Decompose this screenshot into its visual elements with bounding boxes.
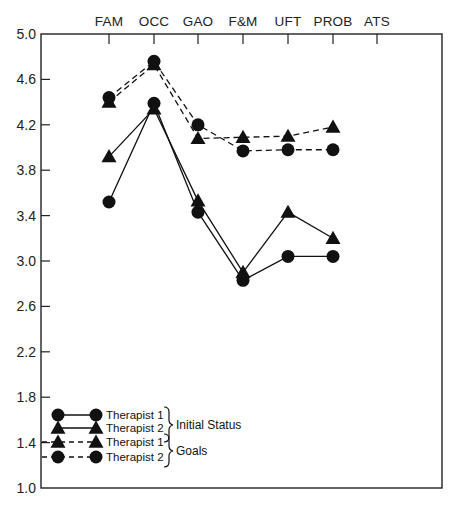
legend-label: Therapist 1 — [106, 436, 164, 448]
legend-triangle-marker — [51, 435, 66, 448]
legend-entry: Therapist 2 — [51, 421, 164, 435]
x-category-label: PROB — [313, 14, 352, 29]
y-tick-label: 4.6 — [17, 71, 37, 87]
y-tick-label: 1.4 — [17, 435, 37, 451]
legend-label: Therapist 1 — [106, 409, 164, 421]
plot-frame — [41, 34, 442, 488]
line-chart: 5.04.64.23.83.43.02.62.21.81.41.0 FAMOCC… — [0, 0, 452, 505]
legend: Therapist 1Therapist 2Therapist 1Therapi… — [42, 407, 241, 467]
legend-entry: Therapist 1 — [52, 409, 164, 422]
legend-label: Therapist 2 — [106, 422, 164, 434]
legend-label: Therapist 2 — [106, 451, 164, 463]
data-point-circle-marker — [237, 144, 250, 157]
series-line — [109, 103, 333, 280]
x-category-label: GAO — [183, 14, 214, 29]
data-point-triangle-marker — [236, 130, 251, 143]
series-initial-status-therapist-2 — [102, 101, 341, 278]
legend-group-goals: Goals — [176, 444, 207, 458]
x-category-label: OCC — [139, 14, 170, 29]
data-point-triangle-marker — [281, 205, 296, 218]
data-point-circle-marker — [327, 143, 340, 156]
legend-entry: Therapist 1 — [42, 435, 164, 449]
data-point-circle-marker — [103, 195, 116, 208]
y-tick-label: 3.4 — [17, 208, 37, 224]
x-axis: FAMOCCGAOF&MUFTPROBATS — [95, 14, 390, 44]
data-point-circle-marker — [282, 143, 295, 156]
series-goals-therapist-2 — [103, 55, 340, 158]
y-tick-label: 1.8 — [17, 389, 37, 405]
y-tick-label: 3.0 — [17, 253, 37, 269]
legend-circle-marker — [90, 409, 103, 422]
y-tick-label: 1.0 — [17, 480, 37, 496]
y-tick-label: 2.2 — [17, 344, 37, 360]
data-point-circle-marker — [148, 55, 161, 68]
data-point-triangle-marker — [326, 231, 341, 244]
legend-entry: Therapist 2 — [42, 451, 164, 464]
legend-circle-marker — [52, 409, 65, 422]
data-point-circle-marker — [192, 118, 205, 131]
legend-triangle-marker — [51, 421, 66, 434]
legend-triangle-marker — [89, 435, 104, 448]
x-category-label: UFT — [275, 14, 302, 29]
y-tick-label: 5.0 — [17, 26, 37, 42]
y-axis: 5.04.64.23.83.43.02.62.21.81.41.0 — [17, 26, 50, 496]
data-point-triangle-marker — [326, 120, 341, 133]
data-point-triangle-marker — [281, 129, 296, 142]
y-tick-label: 2.6 — [17, 298, 37, 314]
data-point-circle-marker — [327, 250, 340, 263]
series-goals-therapist-1 — [102, 57, 341, 144]
x-category-label: F&M — [228, 14, 257, 29]
legend-group-initial-status: Initial Status — [176, 418, 241, 432]
legend-triangle-marker — [89, 421, 104, 434]
y-tick-label: 4.2 — [17, 117, 37, 133]
legend-circle-marker — [52, 451, 65, 464]
data-point-circle-marker — [103, 91, 116, 104]
data-series — [102, 55, 341, 287]
legend-bracket-goals — [164, 434, 173, 467]
data-point-triangle-marker — [191, 131, 206, 144]
x-category-label: FAM — [95, 14, 123, 29]
data-point-circle-marker — [282, 250, 295, 263]
legend-circle-marker — [90, 451, 103, 464]
x-category-label: ATS — [364, 14, 390, 29]
y-tick-label: 3.8 — [17, 162, 37, 178]
